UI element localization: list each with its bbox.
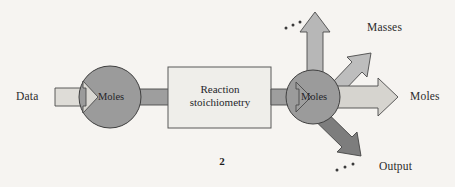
- ellipsis-top-icon: [285, 21, 302, 30]
- label-output: Output: [379, 160, 412, 173]
- reaction-label-line1: Reaction: [200, 83, 239, 95]
- page-number: 2: [214, 155, 230, 167]
- figure-page: Data Masses Moles Output Moles Moles Rea…: [0, 0, 455, 187]
- node-label-moles-input: Moles: [88, 91, 134, 103]
- label-masses: Masses: [367, 21, 402, 34]
- ellipsis-bottom-icon: [336, 163, 355, 172]
- reaction-label-line2: stoichiometry: [190, 96, 251, 108]
- node-label-moles-output: Moles: [293, 91, 335, 103]
- node-label-reaction-stoichiometry: Reaction stoichiometry: [174, 83, 266, 109]
- label-data: Data: [16, 90, 39, 103]
- label-moles-output: Moles: [410, 90, 440, 103]
